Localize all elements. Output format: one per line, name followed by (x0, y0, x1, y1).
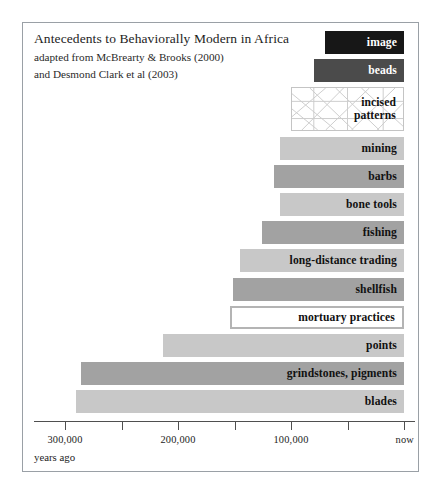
bar-long-distance-trading: long-distance trading (240, 249, 404, 272)
bar-label: beads (368, 64, 404, 77)
bar-label: shellfish (355, 283, 404, 296)
bar-fishing: fishing (262, 221, 404, 244)
chart-figure: Antecedents to Behaviorally Modern in Af… (22, 22, 419, 472)
bar-label: mining (362, 142, 404, 155)
bar-label: incised patterns (354, 96, 403, 122)
bar-grindstones-pigments: grindstones, pigments (81, 362, 404, 385)
bar-label: mortuary practices (298, 311, 402, 324)
axis-tick (178, 422, 179, 430)
axis-tick (235, 422, 236, 430)
axis-line (34, 421, 415, 422)
axis-tick-label: 100,000 (273, 434, 308, 445)
bar-label: bone tools (346, 198, 404, 211)
plot-area: imagebeadsincised patternsminingbarbsbon… (23, 23, 418, 421)
bar-label: image (367, 36, 404, 49)
axis-tick-label: now (396, 434, 415, 445)
bar-label: long-distance trading (290, 254, 404, 267)
bar-label: blades (365, 395, 404, 408)
axis-tick (291, 422, 292, 430)
axis-caption: years ago (34, 451, 75, 463)
bar-label: fishing (363, 226, 404, 239)
bar-image: image (325, 31, 404, 54)
axis-tick (122, 422, 123, 430)
bar-label: grindstones, pigments (287, 367, 404, 380)
bar-beads: beads (314, 59, 404, 82)
x-axis: years ago 300,000200,000100,000now (23, 421, 418, 471)
bar-mining: mining (280, 137, 404, 160)
bar-mortuary-practices: mortuary practices (230, 306, 404, 329)
axis-tick (348, 422, 349, 430)
bar-bone-tools: bone tools (280, 193, 404, 216)
bar-label: barbs (368, 170, 404, 183)
axis-tick (404, 422, 405, 430)
bar-points: points (163, 334, 404, 357)
bar-blades: blades (76, 390, 404, 413)
axis-tick-label: 200,000 (160, 434, 195, 445)
bar-label: points (366, 339, 404, 352)
axis-tick-label: 300,000 (47, 434, 82, 445)
bar-incised-patterns: incised patterns (291, 87, 404, 131)
bar-shellfish: shellfish (233, 278, 404, 301)
axis-tick (65, 422, 66, 430)
bar-barbs: barbs (274, 165, 404, 188)
